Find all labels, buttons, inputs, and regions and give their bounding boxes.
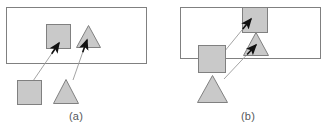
panel-a-shapes [18,25,101,105]
panel-a-caption: (a) [0,110,152,122]
triangle-inside-frame [77,26,101,48]
triangle-inside-frame [244,33,269,56]
panel-a-frame [7,8,147,64]
square-straddling-frame [199,46,226,73]
figure-root: (a) (b) [0,0,329,131]
panel-a [7,8,147,105]
panel-b-caption: (b) [172,110,324,122]
square-outside-frame [18,81,42,105]
panel-b [181,8,321,103]
square-top-inside-frame [243,8,268,33]
panel-b-shapes [198,8,269,103]
triangle-outside-frame [54,80,79,104]
triangle-outside-frame [198,76,228,103]
